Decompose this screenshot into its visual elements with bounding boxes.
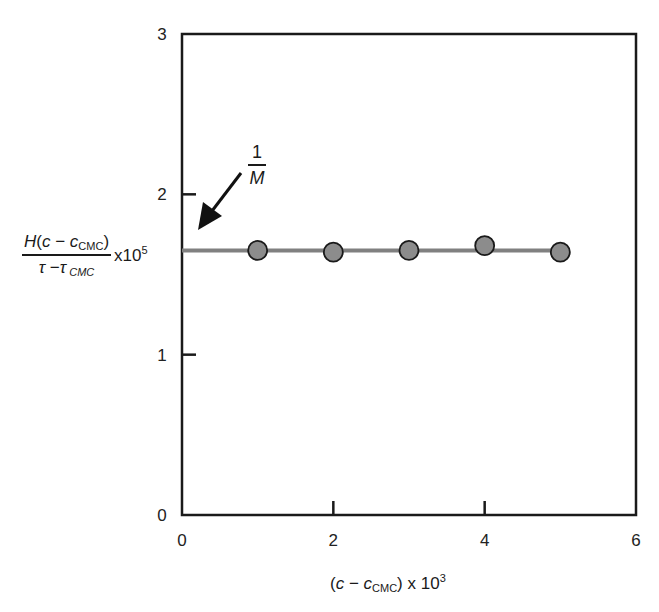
y-label-exp: 5 <box>141 244 147 256</box>
y-label-paren-close: ) <box>103 232 109 251</box>
x-tick-label: 6 <box>631 531 640 550</box>
y-label-x10: x10 <box>114 246 141 265</box>
y-label-den-sub: CMC <box>66 266 94 278</box>
y-tick-label: 1 <box>157 346 166 365</box>
y-label-numerator: H(c − cCMC) <box>22 232 111 256</box>
x-label-exp: 3 <box>440 572 446 584</box>
data-point <box>551 243 570 262</box>
arrow-head <box>198 202 222 230</box>
x-tick-label: 0 <box>177 531 186 550</box>
y-label-denominator: τ −τ CMC <box>39 256 94 278</box>
x-label-c2: c <box>364 574 373 593</box>
y-label-sub: CMC <box>78 240 103 252</box>
annotation-denominator: M <box>250 166 265 189</box>
y-label-H: H <box>24 232 36 251</box>
y-tick-label: 0 <box>157 506 166 525</box>
y-label-den-minus: − <box>45 258 60 277</box>
y-tick-label: 3 <box>157 25 166 44</box>
y-axis-label: H(c − cCMC) τ −τ CMC x105 <box>22 232 148 278</box>
x-label-x10: ) x 10 <box>397 574 440 593</box>
annotation-one-over-m: 1 M <box>248 142 266 189</box>
y-label-fraction: H(c − cCMC) τ −τ CMC <box>22 232 111 278</box>
data-point <box>400 241 419 260</box>
data-point <box>324 243 343 262</box>
y-tick-label: 2 <box>157 185 166 204</box>
y-label-minus: − <box>50 232 69 251</box>
x-axis-label: (c − cCMC) x 103 <box>330 572 446 594</box>
x-label-sub: CMC <box>372 582 397 594</box>
annotation-numerator: 1 <box>248 142 266 166</box>
annotation-fraction: 1 M <box>248 142 266 189</box>
arrow-icon <box>198 173 241 230</box>
data-point <box>248 241 267 260</box>
x-tick-label: 4 <box>480 531 489 550</box>
x-tick-label: 2 <box>329 531 338 550</box>
x-label-minus: − <box>344 574 363 593</box>
plot-frame <box>182 34 636 515</box>
axis-tick-labels: 01230246 <box>157 25 640 550</box>
y-label-multiplier: x105 <box>114 244 148 266</box>
plot-border <box>182 34 636 515</box>
data-point <box>475 236 494 255</box>
x-label-c: c <box>336 574 345 593</box>
arrow-shaft <box>212 173 241 211</box>
chart-svg: 01230246 <box>0 0 659 612</box>
